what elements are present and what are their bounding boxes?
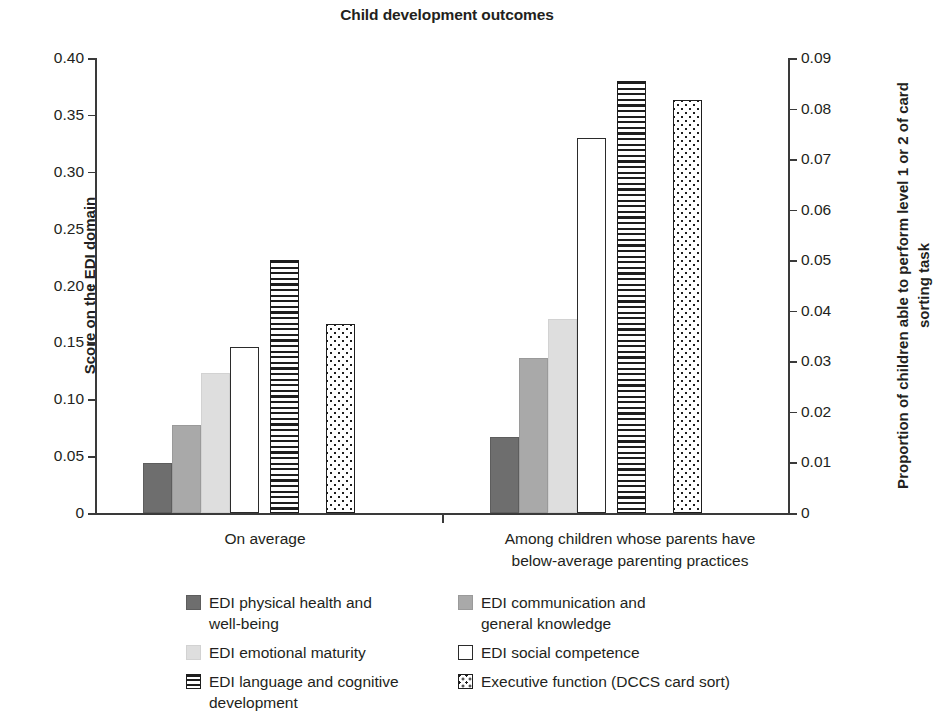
bar [143, 463, 172, 513]
category-label-line: below-average parenting practices [430, 550, 830, 572]
legend-label: EDI language and cognitivedevelopment [209, 671, 399, 713]
right-tick-mark [790, 462, 797, 464]
left-tick-label: 0.40 [24, 49, 84, 67]
bar [673, 100, 702, 513]
legend-item[interactable]: EDI emotional maturity [186, 642, 458, 663]
chart-title: Child development outcomes [0, 6, 894, 24]
left-tick-label: 0.05 [24, 447, 84, 465]
legend-label: EDI communication andgeneral knowledge [481, 592, 646, 634]
bar [519, 358, 548, 513]
right-axis-title: Proportion of children able to perform l… [892, 58, 936, 513]
right-tick-mark [790, 58, 797, 60]
bar [326, 324, 355, 513]
right-tick-mark [790, 311, 797, 313]
right-axis-line [788, 58, 790, 514]
category-label-line: On average [120, 528, 410, 550]
right-tick-mark [790, 159, 797, 161]
bar [270, 260, 299, 513]
bar [577, 138, 606, 513]
right-tick-mark [790, 412, 797, 414]
right-tick-label: 0.06 [801, 201, 861, 219]
legend-label: Executive function (DCCS card sort) [481, 671, 730, 692]
left-tick-label: 0.20 [24, 277, 84, 295]
right-tick-mark [790, 361, 797, 363]
plot-area: 00.050.100.150.200.250.300.350.40 00.010… [95, 58, 790, 513]
right-tick-label: 0.01 [801, 453, 861, 471]
open-outline-icon [458, 645, 473, 660]
category-label-line: Among children whose parents have [430, 528, 830, 550]
legend-item[interactable]: Executive function (DCCS card sort) [458, 671, 878, 692]
legend-label: EDI social competence [481, 642, 640, 663]
right-tick-label: 0.08 [801, 100, 861, 118]
right-tick-mark [790, 260, 797, 262]
solid-dark-icon [186, 595, 201, 610]
legend-item[interactable]: EDI communication andgeneral knowledge [458, 592, 878, 634]
bar [490, 437, 519, 513]
solid-medium-icon [458, 595, 473, 610]
right-tick-label: 0.02 [801, 403, 861, 421]
bar [172, 425, 201, 513]
right-tick-mark [790, 210, 797, 212]
category-label: On average [120, 528, 410, 550]
right-tick-label: 0.05 [801, 251, 861, 269]
bar [201, 373, 230, 513]
left-tick-label: 0.35 [24, 106, 84, 124]
right-tick-label: 0.09 [801, 49, 861, 67]
right-tick-mark [790, 513, 797, 515]
left-tick-mark [88, 513, 95, 515]
bar [230, 347, 259, 513]
category-separator-tick [442, 514, 444, 523]
right-tick-label: 0.04 [801, 302, 861, 320]
left-axis-title: Score on the EDI domain [81, 58, 101, 513]
legend-column-left: EDI physical health andwell-beingEDI emo… [186, 592, 458, 721]
right-tick-mark [790, 109, 797, 111]
legend-item[interactable]: EDI physical health andwell-being [186, 592, 458, 634]
left-tick-label: 0.25 [24, 220, 84, 238]
checkered-dots-icon [458, 674, 473, 689]
right-tick-label: 0 [801, 504, 861, 522]
right-tick-label: 0.03 [801, 352, 861, 370]
bar [617, 81, 646, 513]
legend-item[interactable]: EDI language and cognitivedevelopment [186, 671, 458, 713]
legend-label: EDI physical health andwell-being [209, 592, 372, 634]
left-tick-label: 0.30 [24, 163, 84, 181]
left-tick-label: 0.10 [24, 390, 84, 408]
horizontal-stripes-icon [186, 674, 201, 689]
right-tick-label: 0.07 [801, 150, 861, 168]
legend-column-right: EDI communication andgeneral knowledgeED… [458, 592, 878, 700]
bar [548, 319, 577, 514]
legend-item[interactable]: EDI social competence [458, 642, 878, 663]
category-label: Among children whose parents havebelow-a… [430, 528, 830, 572]
legend-label: EDI emotional maturity [209, 642, 366, 663]
solid-light-icon [186, 645, 201, 660]
left-tick-label: 0.15 [24, 333, 84, 351]
left-tick-label: 0 [24, 504, 84, 522]
